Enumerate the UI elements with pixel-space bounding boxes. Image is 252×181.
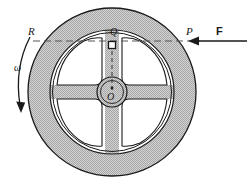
label-point-o: O [107,92,114,102]
label-point-p: P [186,26,193,37]
force-arrow-head [188,37,199,46]
flywheel-diagram: R P F Q O ω [0,0,252,181]
point-q-square-marker [109,42,116,49]
omega-arrow-head [16,102,25,114]
force-arrow-f [188,37,247,46]
flywheel-drawing [0,0,252,181]
label-point-q: Q [110,27,117,37]
label-point-r: R [28,26,35,37]
label-angular-velocity: ω [14,63,21,73]
label-force-f: F [216,26,223,37]
